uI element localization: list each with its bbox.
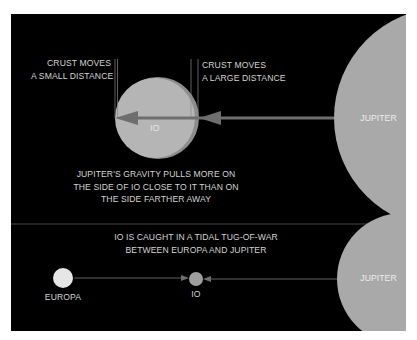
europa-arrowhead (181, 275, 189, 281)
crust-large-line-2: A LARGE DISTANCE (202, 72, 286, 85)
europa-label: EUROPA (38, 291, 88, 304)
tidal-diagram-panel: CRUST MOVES A SMALL DISTANCE CRUST MOVES… (11, 14, 406, 331)
jupiter-arrowhead (203, 276, 211, 282)
crust-large-label: CRUST MOVES A LARGE DISTANCE (202, 59, 286, 84)
tug-caption-line-1: IO IS CAUGHT IN A TIDAL TUG-OF-WAR (106, 231, 286, 244)
gravity-caption-line-2: THE SIDE OF IO CLOSE TO IT THAN ON (66, 181, 246, 194)
tug-of-war-caption: IO IS CAUGHT IN A TIDAL TUG-OF-WAR BETWE… (106, 231, 286, 256)
jupiter-label-bottom: JUPITER (351, 272, 406, 285)
io-label-large: IO (146, 122, 164, 135)
gravity-caption: JUPITER'S GRAVITY PULLS MORE ON THE SIDE… (66, 168, 246, 206)
crust-small-line-1: CRUST MOVES (31, 57, 111, 70)
crust-small-line-2: A SMALL DISTANCE (31, 70, 111, 83)
io-label-small: IO (186, 288, 206, 301)
arrowhead-io-right (199, 111, 221, 125)
gravity-caption-line-3: THE SIDE FARTHER AWAY (66, 193, 246, 206)
io-planet-small (189, 272, 203, 286)
crust-large-line-1: CRUST MOVES (202, 59, 286, 72)
jupiter-label-top: JUPITER (351, 112, 406, 125)
gravity-caption-line-1: JUPITER'S GRAVITY PULLS MORE ON (66, 168, 246, 181)
europa-planet (53, 268, 73, 288)
tug-caption-line-2: BETWEEN EUROPA AND JUPITER (106, 244, 286, 257)
crust-small-label: CRUST MOVES A SMALL DISTANCE (31, 57, 111, 82)
